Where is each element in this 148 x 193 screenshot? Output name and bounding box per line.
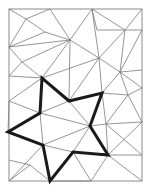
- mesh-edge: [9, 47, 22, 62]
- mesh-edge: [70, 40, 99, 58]
- triangle-mesh: [8, 9, 142, 181]
- mesh-edge: [70, 9, 92, 40]
- mesh-edge: [73, 152, 91, 181]
- mesh-edge: [92, 9, 99, 58]
- mesh-edge: [42, 40, 70, 78]
- mesh-edge: [69, 101, 90, 126]
- mesh-edge: [108, 122, 142, 155]
- mesh-edge: [40, 113, 43, 145]
- star-polygon: [8, 78, 108, 181]
- mesh-edge: [26, 9, 50, 19]
- mesh-edge: [9, 165, 30, 181]
- mesh-edge: [45, 32, 70, 40]
- mesh-edge: [125, 9, 142, 30]
- mesh-edge: [108, 155, 142, 181]
- mesh-edge: [9, 78, 42, 101]
- mesh-edge: [91, 155, 108, 181]
- mesh-edge: [9, 19, 26, 47]
- mesh-edge: [120, 30, 125, 72]
- mesh-edge: [120, 72, 142, 88]
- mesh-edge: [9, 145, 43, 181]
- mesh-edge: [90, 124, 106, 126]
- mesh-edge: [99, 58, 120, 72]
- mesh-edge: [102, 93, 128, 95]
- mesh-edge: [9, 62, 22, 76]
- mesh-edge: [120, 72, 128, 95]
- mesh-edge: [69, 40, 70, 101]
- mesh-edge: [9, 76, 42, 78]
- mesh-edge: [120, 70, 142, 72]
- mesh-edge: [42, 58, 99, 78]
- mesh-edge: [40, 101, 69, 113]
- mesh-edge: [102, 72, 120, 93]
- mesh-edge: [22, 62, 42, 78]
- mesh-edge: [106, 95, 128, 124]
- mesh-edge: [22, 40, 70, 62]
- mesh-edge: [102, 93, 106, 124]
- mesh-edge: [128, 88, 142, 95]
- mesh-edge: [9, 101, 40, 113]
- mesh-edge: [128, 95, 142, 122]
- mesh-edge: [92, 9, 125, 30]
- mesh-edge: [43, 145, 73, 152]
- mesh-edge: [26, 19, 45, 32]
- mesh-edge: [50, 9, 70, 40]
- mesh-edge: [106, 122, 142, 124]
- mesh-edge: [99, 58, 102, 93]
- mesh-edge: [43, 126, 90, 145]
- mesh-edge: [99, 30, 125, 58]
- mesh-edge: [73, 126, 90, 152]
- mesh-edge: [120, 30, 142, 72]
- mesh-edge: [9, 9, 26, 19]
- mesh-edge: [40, 113, 90, 126]
- triangulation-diagram: [0, 0, 148, 193]
